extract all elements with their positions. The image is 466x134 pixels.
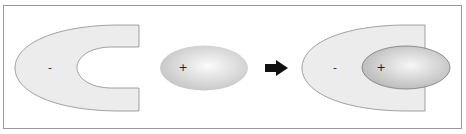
positive-charge-label: + <box>178 61 187 74</box>
combined-shape: - + <box>302 25 450 111</box>
ellipse-combined <box>362 46 450 89</box>
c-shape <box>15 25 139 111</box>
positive-charge-label-combined: + <box>376 61 385 74</box>
ellipse-shape <box>160 46 248 91</box>
positive-ellipse: + <box>160 46 248 91</box>
negative-charge-label: - <box>48 61 52 74</box>
arrow-right-icon <box>265 60 288 76</box>
negative-charge-label-combined: - <box>333 61 337 74</box>
negative-c-shape: - <box>15 25 139 111</box>
diagram-canvas: - + - + <box>0 0 466 134</box>
